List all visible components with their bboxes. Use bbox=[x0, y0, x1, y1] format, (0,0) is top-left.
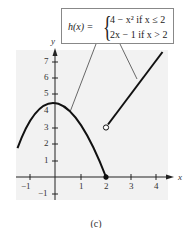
y-axis-label: y bbox=[51, 37, 55, 46]
x-tick-label: 4 bbox=[154, 182, 159, 191]
case-2: 2x − 1 if x > 2 bbox=[110, 29, 167, 40]
x-axis-label: x bbox=[178, 173, 182, 182]
y-tick-label: 1 bbox=[44, 156, 49, 165]
x-tick-label: 1 bbox=[79, 182, 84, 191]
x-tick-label: 3 bbox=[129, 182, 134, 191]
closed-endpoint bbox=[103, 174, 108, 179]
function-definition-box: h(x) = { 4 − x² if x ≤ 2 2x − 1 if x > 2 bbox=[61, 8, 174, 44]
x-axis-arrow-icon bbox=[166, 175, 174, 180]
y-tick-label: 5 bbox=[44, 89, 49, 98]
open-endpoint bbox=[103, 125, 108, 130]
case-1: 4 − x² if x ≤ 2 bbox=[110, 14, 165, 25]
y-tick-label: 2 bbox=[44, 139, 49, 148]
x-tick-label: 2 bbox=[104, 182, 109, 191]
figure-caption: (c) bbox=[0, 218, 192, 228]
y-tick-label: 6 bbox=[44, 73, 49, 82]
x-tick-label: −1 bbox=[21, 182, 31, 191]
y-tick-label: 7 bbox=[44, 57, 49, 66]
y-tick-label: 4 bbox=[44, 106, 49, 115]
y-tick-label: 3 bbox=[44, 123, 49, 132]
function-name: h(x) = bbox=[68, 21, 93, 32]
y-tick-label: −1 bbox=[38, 189, 48, 198]
